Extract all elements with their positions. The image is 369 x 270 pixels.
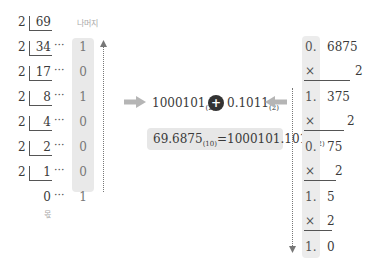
integer-digit: 1. xyxy=(305,190,316,204)
divisor: 2 xyxy=(18,90,26,104)
fraction-digits: 75 xyxy=(327,140,342,154)
remainder-digit: 0 xyxy=(72,65,94,79)
remainder-digit: 1 xyxy=(72,40,94,54)
fraction-digits: 375 xyxy=(327,90,350,104)
underline xyxy=(304,130,344,131)
ellipsis: ··· xyxy=(54,39,65,52)
integer-binary-value: 1000101 xyxy=(152,96,205,110)
final-quotient: 0 xyxy=(31,190,51,204)
remainder-digit: 0 xyxy=(72,140,94,154)
read-down-dotted-line xyxy=(292,88,293,248)
read-up-dotted-line xyxy=(103,46,104,192)
ellipsis: ··· xyxy=(54,114,65,127)
remainder-digit: 0 xyxy=(72,165,94,179)
divisor: 2 xyxy=(18,15,26,29)
quotient: 2 xyxy=(31,140,51,154)
ellipsis: ··· xyxy=(54,164,65,177)
underline xyxy=(304,230,332,231)
divisor: 2 xyxy=(18,115,26,129)
multiplier: 2 xyxy=(327,214,335,228)
divisor: 2 xyxy=(18,140,26,154)
division-row: 2 69 xyxy=(18,14,128,34)
integer-digit: 0. xyxy=(305,140,316,154)
times-sign: × xyxy=(305,114,315,128)
integer-digit: 0. xyxy=(305,40,316,54)
multiplier: 2 xyxy=(335,164,343,178)
quotient: 17 xyxy=(31,65,51,79)
times-sign: × xyxy=(305,164,315,178)
integer-digit: 1. xyxy=(305,240,316,254)
quotient: 34 xyxy=(31,40,51,54)
remainder-digit: 1 xyxy=(72,190,94,204)
quotient: 4 xyxy=(31,115,51,129)
ellipsis: ··· xyxy=(54,139,65,152)
ellipsis: ··· xyxy=(54,189,65,202)
arrow-right-icon xyxy=(124,96,146,108)
plus-icon: + xyxy=(208,95,224,111)
ellipsis: ··· xyxy=(54,64,65,77)
arrow-left-icon xyxy=(265,96,287,108)
quotient: 1 xyxy=(31,165,51,179)
quotient: 8 xyxy=(31,90,51,104)
fraction-digits: 6875 xyxy=(327,40,358,54)
multiplier: 2 xyxy=(347,114,355,128)
quotient-label: 몫 xyxy=(44,208,51,219)
arrow-up-icon xyxy=(99,40,108,48)
remainder-digit: 1 xyxy=(72,90,94,104)
underline xyxy=(304,180,336,181)
integer-binary: 1000101(2) xyxy=(152,96,215,115)
integer-digit: 1. xyxy=(305,90,316,104)
fraction-binary-value: 0.1011 xyxy=(227,96,269,110)
divisor: 2 xyxy=(18,40,26,54)
times-sign: × xyxy=(305,64,315,78)
times-sign: × xyxy=(305,214,315,228)
arrow-down-icon xyxy=(288,246,297,254)
ellipsis: ··· xyxy=(54,89,65,102)
quotient: 69 xyxy=(31,15,51,29)
fraction-digits: 0 xyxy=(327,240,335,254)
multiplier: 2 xyxy=(355,64,363,78)
divisor: 2 xyxy=(18,165,26,179)
remainder-digit: 0 xyxy=(72,115,94,129)
result-equation: 69.6875(10)=1000101.1011(2) xyxy=(153,132,325,151)
underline xyxy=(304,80,350,81)
divisor: 2 xyxy=(18,65,26,79)
decimal-value: 69.6875 xyxy=(153,132,203,146)
decimal-base: (10) xyxy=(203,140,217,148)
equals-sign: = xyxy=(217,132,227,146)
fraction-digits: 5 xyxy=(327,190,335,204)
